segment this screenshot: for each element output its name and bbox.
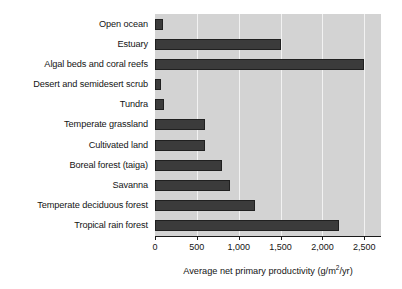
bar [155, 99, 164, 110]
bar-row [155, 39, 381, 50]
x-axis-tick-label: 2,500 [353, 242, 376, 252]
bar-chart-figure: Open oceanEstuaryAlgal beds and coral re… [0, 0, 402, 289]
plot-area [155, 14, 381, 236]
y-axis-label: Cultivated land [0, 140, 152, 151]
x-axis-title: Average net primary productivity (g/m2/y… [155, 266, 381, 276]
bar-row [155, 140, 381, 151]
bar [155, 140, 205, 151]
bar-row [155, 79, 381, 90]
x-axis-tick-label: 1,500 [269, 242, 292, 252]
bar-row [155, 180, 381, 191]
y-axis-label: Temperate grassland [0, 119, 152, 130]
bar [155, 59, 364, 70]
bar-row [155, 99, 381, 110]
y-axis-label: Temperate deciduous forest [0, 200, 152, 211]
x-axis-tick [364, 236, 365, 240]
x-axis-tick-label: 1,000 [227, 242, 250, 252]
x-axis-tick [281, 236, 282, 240]
bar [155, 79, 161, 90]
bar [155, 39, 281, 50]
x-axis-tick [322, 236, 323, 240]
bar [155, 200, 255, 211]
x-axis-title-suffix: /yr) [339, 266, 352, 276]
bar-row [155, 160, 381, 171]
y-axis-label: Desert and semidesert scrub [0, 79, 152, 90]
x-axis-tick-label: 0 [152, 242, 157, 252]
y-axis-label: Savanna [0, 180, 152, 191]
y-axis-label: Open ocean [0, 19, 152, 30]
y-axis-label: Boreal forest (taiga) [0, 160, 152, 171]
x-axis-tick [197, 236, 198, 240]
bar [155, 19, 163, 30]
y-axis-label: Algal beds and coral reefs [0, 59, 152, 70]
bar-row [155, 220, 381, 231]
y-axis-label: Tundra [0, 99, 152, 110]
y-axis-category-labels: Open oceanEstuaryAlgal beds and coral re… [0, 14, 152, 236]
bar-row [155, 59, 381, 70]
bar-row [155, 119, 381, 130]
x-axis-title-text: Average net primary productivity (g/m [183, 266, 336, 276]
x-axis-tick-label: 2,000 [311, 242, 334, 252]
bar [155, 220, 339, 231]
bar-series [155, 14, 381, 236]
bar-row [155, 200, 381, 211]
x-axis-tick-label: 500 [189, 242, 204, 252]
bar-row [155, 19, 381, 30]
bar [155, 160, 222, 171]
x-axis-tick [155, 236, 156, 240]
x-axis-line [155, 236, 381, 237]
y-axis-label: Estuary [0, 39, 152, 50]
bar [155, 180, 230, 191]
x-axis-tick [239, 236, 240, 240]
bar [155, 119, 205, 130]
y-axis-label: Tropical rain forest [0, 220, 152, 231]
